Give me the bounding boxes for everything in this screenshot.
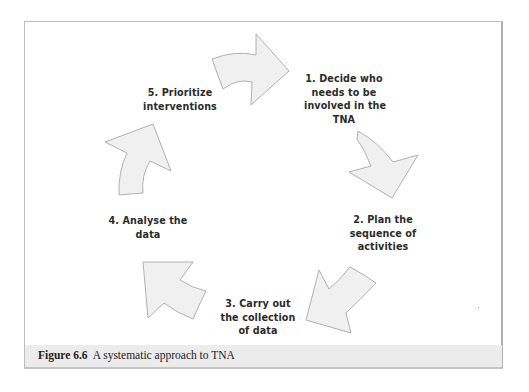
curved-arrow-down-icon [349, 131, 418, 198]
step-2-label: 2. Plan the sequence of activities [349, 213, 417, 254]
step-1-label: 1. Decide who needs to be involved in th… [304, 72, 384, 126]
step-4-label: 4. Analyse the data [108, 214, 188, 241]
figure-canvas: 1. Decide who needs to be involved in th… [0, 0, 529, 392]
figure-number: Figure 6.6 [38, 349, 88, 361]
curved-arrow-down-left-icon [306, 267, 376, 333]
scan-speck [478, 307, 479, 308]
figure-caption: Figure 6.6A systematic approach to TNA [38, 349, 235, 361]
curved-arrow-up-left-icon [143, 262, 206, 319]
step-3-label: 3. Carry out the collection of data [218, 297, 298, 338]
step-5-label: 5. Prioritize interventions [143, 86, 217, 113]
curved-arrow-right-icon [212, 34, 289, 105]
curved-arrow-up-icon [105, 124, 171, 195]
figure-caption-text: A systematic approach to TNA [93, 349, 235, 361]
